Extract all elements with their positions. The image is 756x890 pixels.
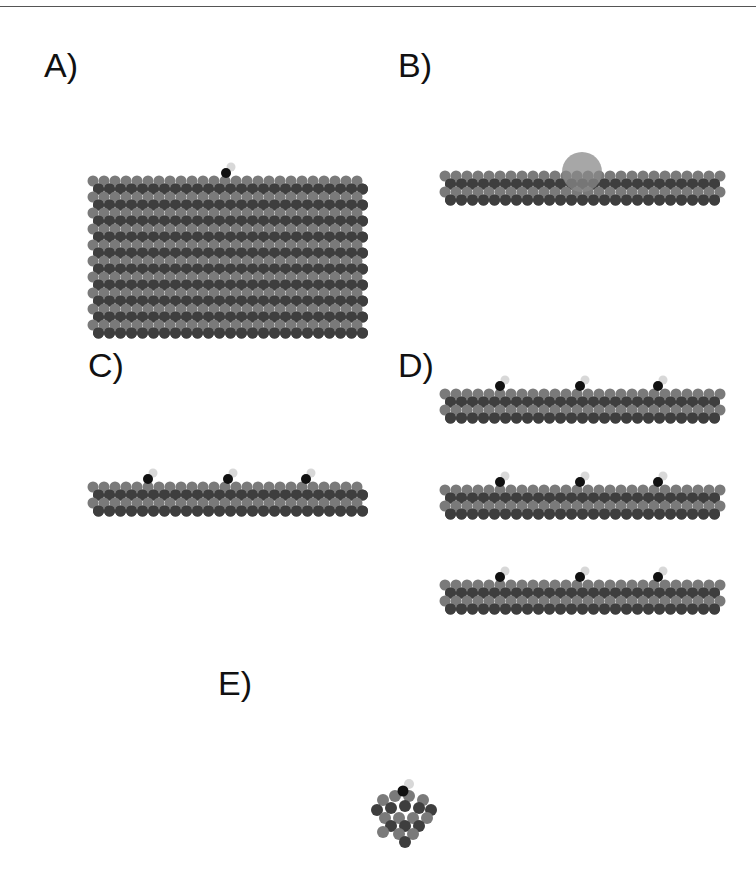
panel-label-a: A) [44,48,78,82]
panel-d-slab-3 [440,563,725,615]
panel-label-e: E) [218,666,252,700]
panel-label-d: D) [398,348,434,382]
panel-d-slab-1 [440,372,725,424]
panel-b-thin-slab [440,150,725,210]
top-rule [0,6,756,7]
panel-label-b: B) [398,48,432,82]
panel-d-slab-2 [440,468,725,520]
panel-e-cluster [365,780,445,850]
panel-c-thin-slab [88,465,368,520]
panel-label-c: C) [88,348,124,382]
panel-a-thick-slab [88,155,368,330]
